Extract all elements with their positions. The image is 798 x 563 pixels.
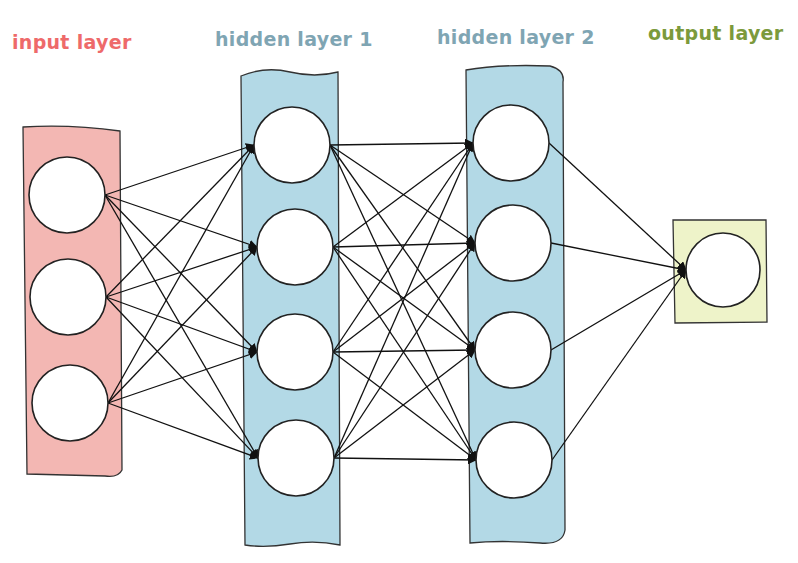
hidden1-node-3 (257, 314, 333, 390)
hidden2-node-3 (475, 312, 551, 388)
network-diagram (0, 0, 798, 563)
connection-edge (552, 270, 686, 460)
connection-edge (108, 403, 258, 458)
hidden1-node-2 (257, 209, 333, 285)
connection-edge (333, 143, 473, 247)
hidden1-node-4 (258, 420, 334, 496)
input-node-1 (29, 157, 105, 233)
hidden2-node-1 (473, 105, 549, 181)
connection-edge (333, 247, 476, 460)
connection-edge (108, 352, 257, 403)
connection-edge (549, 143, 686, 270)
output-node-1 (686, 233, 760, 307)
connection-edge (333, 352, 476, 460)
connection-edge (334, 458, 476, 460)
input-node-2 (30, 259, 106, 335)
hidden2-node-4 (476, 422, 552, 498)
hidden1-node-1 (254, 107, 330, 183)
connection-edge (334, 350, 475, 458)
connection-edge (334, 143, 473, 458)
connection-edge (333, 243, 475, 352)
connection-edge (330, 145, 475, 243)
connection-edge (105, 145, 254, 195)
input-node-3 (32, 365, 108, 441)
connection-edge (551, 270, 686, 350)
connection-edge (105, 195, 257, 247)
connection-edge (333, 143, 473, 352)
hidden2-node-2 (475, 205, 551, 281)
connection-edge (330, 143, 473, 145)
connection-edge (551, 243, 686, 270)
connection-edge (106, 297, 257, 352)
